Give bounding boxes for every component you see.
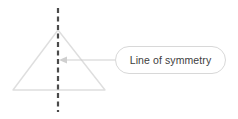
callout-label-box: Line of symmetry <box>115 46 226 74</box>
arrowhead-icon <box>59 57 67 64</box>
symmetry-diagram: Line of symmetry <box>0 0 238 119</box>
callout-label-text: Line of symmetry <box>130 54 212 66</box>
